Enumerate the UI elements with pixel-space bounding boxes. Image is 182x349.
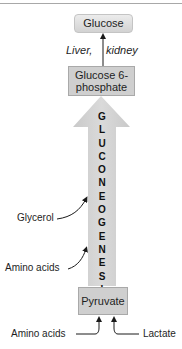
- pyruvate-node: Pyruvate: [78, 287, 128, 315]
- amino-acids-mid-label: Amino acids: [5, 262, 59, 273]
- glucose-node: Glucose: [74, 14, 133, 33]
- lactate-label: Lactate: [143, 328, 176, 339]
- glucose-6-phosphate-node: Glucose 6- phosphate: [68, 66, 135, 96]
- liver-label: Liver,: [66, 44, 92, 56]
- amino-acids-mid-arrow: [68, 249, 86, 269]
- g6p-label-line1: Glucose 6-: [75, 69, 128, 81]
- glycerol-label: Glycerol: [17, 212, 54, 223]
- g6p-label-line2: phosphate: [75, 81, 128, 93]
- glycerol-arrow: [57, 199, 86, 219]
- amino-acids-bottom-arrow: [76, 319, 99, 334]
- lactate-arrow: [114, 319, 139, 334]
- pyruvate-label: Pyruvate: [81, 295, 124, 308]
- glucose-label: Glucose: [83, 17, 123, 30]
- kidney-label: kidney: [106, 44, 138, 56]
- amino-acids-bottom-label: Amino acids: [11, 328, 65, 339]
